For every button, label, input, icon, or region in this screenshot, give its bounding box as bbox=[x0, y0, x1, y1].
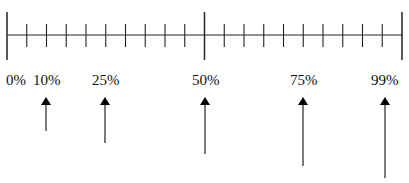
arrow-up-icon bbox=[298, 97, 308, 105]
percentile-label: 10% bbox=[33, 73, 61, 88]
percentile-label: 50% bbox=[192, 73, 220, 88]
percentile-label: 99% bbox=[371, 73, 399, 88]
scale-graphic bbox=[0, 0, 409, 183]
percentile-label: 25% bbox=[92, 73, 120, 88]
percentile-label: 75% bbox=[290, 73, 318, 88]
arrow-up-icon bbox=[200, 97, 210, 105]
percentile-diagram: 0%10%25%50%75%99% bbox=[0, 0, 409, 183]
arrow-up-icon bbox=[41, 97, 51, 105]
arrow-up-icon bbox=[380, 97, 390, 105]
percentile-label: 0% bbox=[6, 73, 26, 88]
arrow-up-icon bbox=[100, 97, 110, 105]
